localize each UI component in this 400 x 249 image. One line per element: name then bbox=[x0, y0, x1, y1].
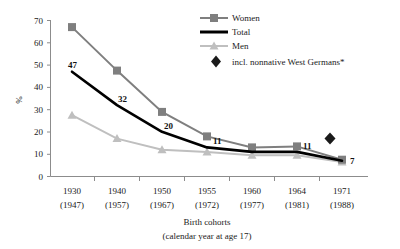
x-tick-group bbox=[95, 177, 320, 182]
y-tick-label: 60 bbox=[34, 38, 44, 48]
women-marker bbox=[68, 23, 76, 31]
y-tick-group bbox=[47, 21, 51, 177]
y-axis-title: % bbox=[14, 96, 24, 104]
x-tick-label-primary: 1971 bbox=[333, 186, 351, 196]
legend: Women Total Men incl. nonnative West Ger… bbox=[200, 13, 345, 68]
data-label-total-1930: 47 bbox=[68, 60, 78, 70]
legend-square-marker-icon bbox=[210, 14, 218, 22]
line-chart: 0 10 20 30 40 50 60 70 % bbox=[0, 0, 400, 249]
x-tick-label-secondary: (1967) bbox=[150, 200, 174, 210]
y-tick-label: 70 bbox=[34, 16, 44, 26]
women-marker bbox=[158, 108, 166, 116]
y-tick-label: 30 bbox=[34, 105, 44, 115]
data-label-total-1960: 11 bbox=[213, 136, 222, 146]
legend-item-men[interactable]: Men bbox=[200, 41, 249, 51]
x-tick-label-primary: 1930 bbox=[63, 186, 82, 196]
x-tick-label-secondary: (1981) bbox=[285, 200, 309, 210]
legend-item-total[interactable]: Total bbox=[200, 27, 251, 37]
y-tick-label: 50 bbox=[34, 60, 44, 70]
x-tick-label-primary: 1955 bbox=[198, 186, 217, 196]
legend-label-total: Total bbox=[232, 27, 251, 37]
legend-item-nonnative[interactable]: incl. nonnative West Germans* bbox=[211, 56, 345, 68]
x-tick-label-primary: 1950 bbox=[153, 186, 172, 196]
data-label-total-1971: 7 bbox=[350, 156, 355, 166]
x-axis-title-line2: (calendar year at age 17) bbox=[163, 231, 252, 241]
legend-diamond-marker-icon bbox=[211, 56, 221, 68]
women-marker bbox=[203, 132, 211, 140]
x-tick-label-secondary: (1988) bbox=[330, 200, 354, 210]
x-tick-label-secondary: (1977) bbox=[240, 200, 264, 210]
extra-point-group bbox=[325, 133, 336, 145]
men-marker bbox=[113, 134, 122, 142]
y-tick-label: 0 bbox=[39, 172, 44, 182]
legend-item-women[interactable]: Women bbox=[200, 13, 260, 23]
x-tick-label-primary: 1964 bbox=[288, 186, 307, 196]
y-tick-label: 10 bbox=[34, 149, 44, 159]
legend-label-nonnative: incl. nonnative West Germans* bbox=[232, 57, 345, 67]
x-tick-label-primary: 1960 bbox=[243, 186, 262, 196]
men-marker bbox=[68, 111, 77, 119]
x-tick-label-secondary: (1947) bbox=[60, 200, 84, 210]
chart-container: 0 10 20 30 40 50 60 70 % bbox=[0, 0, 400, 249]
data-label-total-1964: 11 bbox=[303, 141, 312, 151]
women-marker bbox=[293, 142, 301, 150]
women-marker bbox=[113, 67, 121, 75]
data-label-total-1940: 32 bbox=[118, 94, 128, 104]
x-tick-label-secondary: (1957) bbox=[105, 200, 129, 210]
y-tick-label: 20 bbox=[34, 127, 44, 137]
legend-label-men: Men bbox=[232, 41, 249, 51]
diamond-marker bbox=[325, 133, 336, 145]
x-tick-label-secondary: (1972) bbox=[195, 200, 219, 210]
women-marker bbox=[248, 143, 256, 151]
legend-label-women: Women bbox=[232, 13, 260, 23]
y-tick-label: 40 bbox=[34, 82, 44, 92]
data-label-total-1950: 20 bbox=[164, 121, 174, 131]
x-axis-title-line1: Birth cohorts bbox=[183, 217, 231, 227]
x-tick-label-primary: 1940 bbox=[108, 186, 127, 196]
